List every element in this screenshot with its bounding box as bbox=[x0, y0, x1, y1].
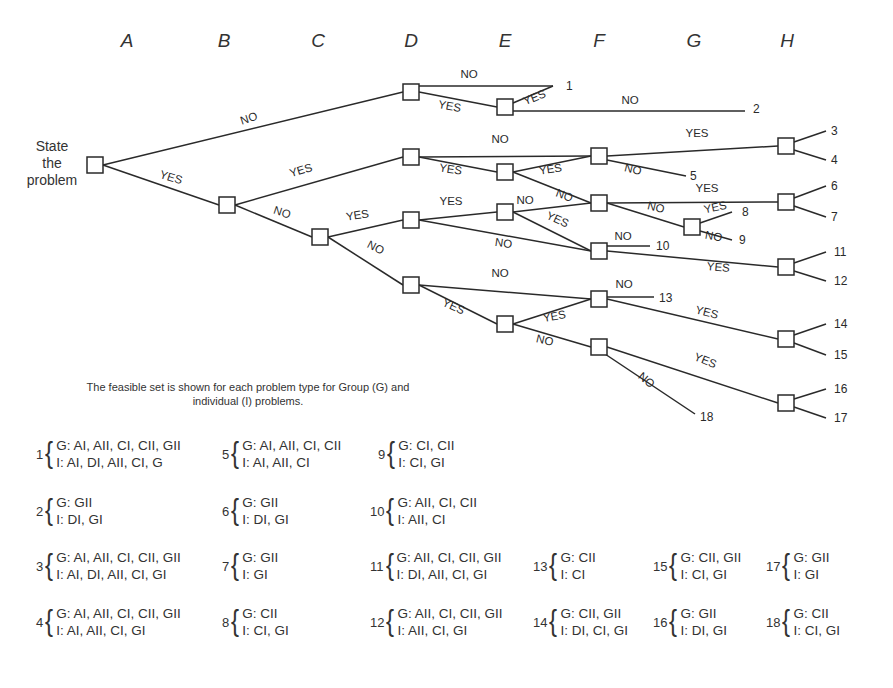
feasible-set-entry: 14{G: CII, GIII: DI, CI, GI bbox=[533, 605, 628, 639]
edge-label: NO bbox=[491, 133, 508, 145]
individual-set: I: GI bbox=[794, 566, 830, 583]
group-set: G: AII, CI, CII, GII bbox=[398, 605, 503, 622]
feasible-set-lines: G: GIII: GI bbox=[242, 549, 278, 583]
feasible-set-lines: G: CI, CIII: CI, GI bbox=[398, 437, 454, 471]
feasible-set-entry: 8{G: CIII: CI, GI bbox=[222, 605, 289, 639]
leaf-edge bbox=[605, 354, 695, 414]
leaf-edge bbox=[607, 160, 686, 176]
group-set: G: CII bbox=[561, 549, 596, 566]
decision-node bbox=[312, 229, 328, 245]
individual-set: I: AII, CI bbox=[398, 511, 478, 528]
feasible-set-entry: 10{G: AII, CI, CIII: AII, CI bbox=[370, 494, 477, 528]
brace-glyph: { bbox=[669, 606, 677, 636]
feasible-set-entry: 9{G: CI, CIII: CI, GI bbox=[378, 437, 455, 471]
group-set: G: AII, CI, CII bbox=[398, 494, 478, 511]
problem-type-number: 9 bbox=[378, 447, 385, 462]
decision-node bbox=[778, 194, 794, 210]
edge-label: NO bbox=[365, 238, 386, 257]
edge-label: NO bbox=[614, 230, 631, 242]
edge-label: YES bbox=[538, 161, 563, 177]
decision-node bbox=[591, 339, 607, 355]
feasible-set-lines: G: AII, CI, CII, GIII: AII, CI, GI bbox=[398, 605, 503, 639]
terminal-number: 14 bbox=[834, 317, 848, 331]
terminal-number: 9 bbox=[739, 233, 746, 247]
feasible-set-lines: G: GIII: DI, GI bbox=[56, 494, 103, 528]
feasible-set-lines: G: CII, GIII: CI, GI bbox=[681, 549, 742, 583]
brace-glyph: { bbox=[782, 606, 790, 636]
group-set: G: CII bbox=[794, 605, 841, 622]
terminal-number: 11 bbox=[834, 245, 847, 259]
problem-type-number: 11 bbox=[370, 559, 384, 574]
edge-label: YES bbox=[439, 195, 462, 207]
terminal-number: 6 bbox=[831, 179, 838, 193]
feasible-set-entry: 5{G: AI, AII, CI, CIII: AI, AII, CI bbox=[222, 437, 341, 471]
edge-label: NO bbox=[460, 68, 477, 80]
leaf-edge bbox=[794, 343, 826, 355]
edge-label: NO bbox=[272, 204, 292, 221]
brace-glyph: { bbox=[387, 438, 395, 468]
group-set: G: CII, GII bbox=[561, 605, 629, 622]
problem-type-number: 14 bbox=[533, 615, 547, 630]
feasible-set-lines: G: AII, CI, CII, GIII: DI, AII, CI, GI bbox=[397, 549, 502, 583]
individual-set: I: DI, GI bbox=[242, 511, 289, 528]
tree-edge bbox=[607, 251, 778, 267]
caption-line: individual (I) problems. bbox=[28, 394, 468, 408]
group-set: G: AI, AII, CI, CII, GII bbox=[56, 437, 181, 454]
tree-edge bbox=[607, 146, 778, 156]
edge-label: NO bbox=[494, 236, 513, 250]
edge-label: NO bbox=[554, 187, 574, 204]
individual-set: I: CI, GI bbox=[681, 566, 742, 583]
decision-node bbox=[591, 243, 607, 259]
individual-set: I: DI, CI, GI bbox=[561, 622, 629, 639]
individual-set: I: DI, GI bbox=[681, 622, 728, 639]
leaf-edge bbox=[794, 206, 826, 217]
individual-set: I: DI, AII, CI, GI bbox=[397, 566, 502, 583]
feasible-set-entry: 11{G: AII, CI, CII, GIII: DI, AII, CI, G… bbox=[370, 549, 502, 583]
individual-set: I: AI, DI, AII, CI, GI bbox=[56, 566, 181, 583]
tree-edge bbox=[328, 237, 403, 285]
feasible-set-lines: G: CII, GIII: DI, CI, GI bbox=[561, 605, 629, 639]
brace-glyph: { bbox=[386, 550, 394, 580]
decision-node bbox=[591, 148, 607, 164]
individual-set: I: AI, AII, CI bbox=[242, 454, 341, 471]
decision-node bbox=[497, 204, 513, 220]
problem-type-number: 5 bbox=[222, 447, 229, 462]
brace-glyph: { bbox=[782, 550, 790, 580]
terminal-number: 2 bbox=[753, 102, 760, 116]
terminal-number: 4 bbox=[831, 153, 838, 167]
feasible-set-lines: G: GIII: GI bbox=[794, 549, 830, 583]
problem-type-number: 8 bbox=[222, 615, 229, 630]
group-set: G: GII bbox=[242, 549, 278, 566]
terminal-number: 8 bbox=[742, 205, 749, 219]
edge-label: NO bbox=[621, 94, 638, 106]
decision-node bbox=[403, 277, 419, 293]
group-set: G: CI, CII bbox=[398, 437, 454, 454]
feasible-set-lines: G: AI, AII, CI, CIII: AI, AII, CI bbox=[242, 437, 341, 471]
tree-edge bbox=[607, 299, 778, 339]
edge-label: YES bbox=[545, 209, 571, 230]
individual-set: I: CI, GI bbox=[242, 622, 289, 639]
tree-edge bbox=[607, 202, 778, 203]
feasible-set-lines: G: AI, AII, CI, CII, GIII: AI, DI, AII, … bbox=[56, 549, 181, 583]
brace-glyph: { bbox=[45, 606, 53, 636]
feasible-set-lines: G: GIII: DI, GI bbox=[681, 605, 728, 639]
edge-label: YES bbox=[693, 350, 719, 370]
decision-node bbox=[403, 212, 419, 228]
tree-edge bbox=[607, 347, 778, 403]
group-set: G: AI, AII, CI, CII, GII bbox=[56, 549, 181, 566]
leaf-edge bbox=[794, 407, 826, 418]
caption-line: The feasible set is shown for each probl… bbox=[28, 380, 468, 394]
feasible-set-lines: G: GIII: DI, GI bbox=[242, 494, 289, 528]
feasible-set-lines: G: CIII: CI, GI bbox=[794, 605, 841, 639]
problem-type-number: 16 bbox=[653, 615, 667, 630]
feasible-set-lines: G: CIII: CI, GI bbox=[242, 605, 289, 639]
feasible-set-lines: G: CIII: CI bbox=[561, 549, 596, 583]
edge-label: YES bbox=[288, 161, 314, 179]
individual-set: I: CI, GI bbox=[398, 454, 454, 471]
feasible-set-entry: 4{G: AI, AII, CI, CII, GIII: AI, AII, CI… bbox=[36, 605, 181, 639]
leaf-edge bbox=[794, 324, 826, 335]
tree-edge bbox=[419, 156, 591, 157]
edge-label: YES bbox=[441, 296, 467, 317]
decision-node bbox=[778, 259, 794, 275]
feasible-set-entry: 13{G: CIII: CI bbox=[533, 549, 596, 583]
